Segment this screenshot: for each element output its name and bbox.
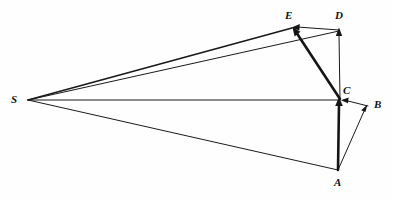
edge-C-D [339, 34, 340, 100]
edge-S-D [28, 31, 339, 100]
arrowhead-at-C-from-B [341, 97, 349, 103]
vertex-label-E: E [285, 10, 292, 21]
arrowhead-at-B-from-A [361, 105, 367, 113]
vertex-label-B: B [374, 99, 381, 110]
vertex-label-S: S [11, 94, 17, 105]
vertex-label-A: A [334, 177, 341, 188]
vertex-label-D: D [335, 10, 343, 21]
arrowhead-at-C-from-A [335, 97, 343, 106]
edge-S-E [28, 28, 292, 100]
diagram-canvas: S A B C D E [0, 0, 393, 199]
edge-A-B [338, 109, 365, 170]
edge-S-A [28, 100, 338, 170]
edge-D-E [297, 27, 339, 30]
edge-A-C [338, 104, 339, 170]
edge-C-E [296, 32, 340, 99]
vector-diagram-svg [0, 0, 393, 199]
vertex-label-C: C [343, 85, 350, 96]
